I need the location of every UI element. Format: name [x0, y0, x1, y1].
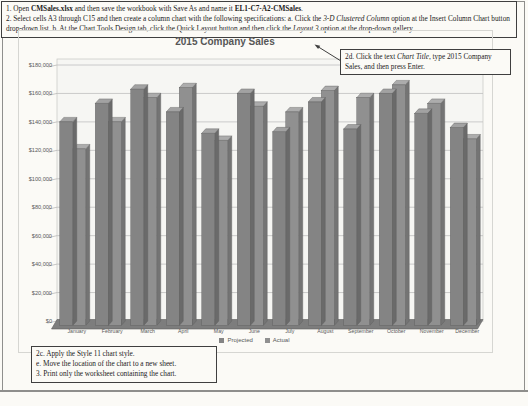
bar-projected-march-side	[144, 85, 148, 326]
bar-projected-april-side	[179, 107, 183, 325]
bar-actual-august-side	[334, 86, 338, 325]
bar-projected-september	[344, 129, 357, 326]
y-tick-label: $120,000	[29, 147, 52, 153]
bar-projected-september-side	[357, 125, 361, 326]
bar-actual-july-side	[299, 107, 303, 325]
bar-projected-january-side	[73, 117, 77, 325]
legend-item-actual: Actual	[265, 337, 290, 343]
bar-actual-april-side	[192, 83, 196, 325]
y-tick-label: $80,000	[32, 204, 52, 210]
x-tick-label: March	[141, 328, 156, 334]
bar-actual-october-side	[405, 80, 409, 325]
scanned-worksheet-page: 1. Open CMSales.xlsx and then save the w…	[0, 0, 528, 406]
y-tick-label: $20,000	[32, 290, 52, 296]
y-tick-label: $160,000	[29, 90, 52, 96]
x-tick-label: August	[317, 328, 334, 334]
legend-swatch-icon	[265, 338, 270, 343]
bar-actual-march-side	[157, 93, 161, 325]
x-tick-label: February	[102, 328, 123, 334]
x-tick-label: May	[214, 328, 224, 334]
x-tick-label: June	[249, 328, 260, 334]
bar-actual-november-side	[441, 99, 445, 326]
callout-text: 2d. Click the text Chart Title, type 201…	[345, 52, 506, 72]
bar-projected-february	[95, 103, 108, 325]
legend-label: Projected	[227, 337, 252, 343]
x-tick-label: December	[455, 328, 479, 334]
bar-projected-june-side	[250, 89, 254, 326]
bar-projected-october	[379, 93, 392, 325]
y-tick-label: $100,000	[29, 176, 52, 182]
bar-actual-september-side	[370, 93, 374, 325]
bar-projected-december-side	[463, 123, 467, 325]
bar-projected-july-side	[286, 127, 290, 325]
text-run: Chart Title	[397, 52, 429, 61]
bar-actual-february-side	[121, 117, 125, 325]
bar-actual-december-side	[476, 134, 480, 325]
x-tick-label: April	[178, 328, 188, 334]
x-tick-label: November	[420, 328, 444, 334]
bar-projected-may	[202, 133, 215, 325]
bar-projected-august	[308, 102, 321, 326]
bar-projected-june	[237, 93, 250, 325]
bar-projected-january	[60, 122, 73, 326]
bar-actual-may-side	[228, 136, 232, 326]
chart-title: 2015 Company Sales	[95, 36, 355, 47]
callout-box: 2d. Click the text Chart Title, type 201…	[340, 49, 511, 75]
text-run: 2d. Click the text	[345, 52, 397, 61]
bar-projected-march	[131, 89, 144, 325]
bar-projected-november-side	[428, 109, 432, 326]
y-tick-label: $0	[46, 318, 52, 324]
bar-projected-july	[273, 132, 286, 326]
y-tick-label: $180,000	[29, 62, 52, 68]
legend-label: Actual	[273, 337, 290, 343]
bar-projected-february-side	[108, 99, 112, 326]
bar-projected-april	[166, 112, 179, 326]
x-tick-label: July	[285, 328, 295, 334]
chart-legend: ProjectedActual	[18, 337, 491, 343]
x-tick-label: September	[348, 328, 374, 334]
bar-projected-october-side	[392, 89, 396, 326]
y-tick-label: $140,000	[29, 119, 52, 125]
bar-projected-august-side	[321, 97, 325, 325]
bar-actual-june-side	[263, 102, 267, 326]
bar-actual-january-side	[86, 144, 90, 325]
bar-projected-may-side	[215, 129, 219, 326]
bar-projected-november	[415, 113, 428, 325]
y-tick-label: $60,000	[32, 233, 52, 239]
bar-projected-december	[450, 128, 463, 326]
legend-item-projected: Projected	[219, 337, 252, 343]
y-tick-label: $40,000	[32, 261, 52, 267]
legend-swatch-icon	[219, 338, 224, 343]
x-tick-label: January	[68, 328, 87, 334]
x-tick-label: October	[387, 328, 406, 334]
